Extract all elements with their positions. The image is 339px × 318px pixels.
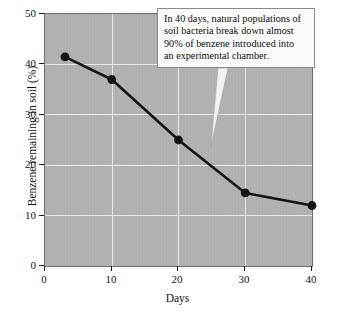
- tick-x-10: [111, 266, 112, 271]
- tick-x-0: [44, 266, 45, 271]
- ticklabel-x-30: 30: [224, 274, 264, 285]
- tick-x-30: [244, 266, 245, 271]
- tick-y-40: [39, 63, 44, 64]
- data-point: [61, 52, 70, 61]
- tick-y-30: [39, 114, 44, 115]
- annotation-line-3: 90% of benzene introduced into: [164, 38, 309, 50]
- x-axis-label: Days: [44, 292, 311, 304]
- data-point: [241, 189, 250, 198]
- tick-y-20: [39, 164, 44, 165]
- ticklabel-x-0: 0: [24, 274, 64, 285]
- tick-y-10: [39, 215, 44, 216]
- data-point: [174, 136, 183, 145]
- annotation-line-4: an experimental chamber.: [164, 50, 309, 62]
- tick-y-50: [39, 13, 44, 14]
- data-point: [107, 75, 116, 84]
- ticklabel-x-10: 10: [91, 274, 131, 285]
- annotation-callout: In 40 days, natural populations of soil …: [157, 8, 315, 68]
- tick-x-20: [177, 266, 178, 271]
- tick-x-40: [311, 266, 312, 271]
- ticklabel-y-50: 50: [0, 8, 36, 19]
- ticklabel-x-40: 40: [291, 274, 331, 285]
- ticklabel-x-20: 20: [157, 274, 197, 285]
- annotation-line-2: soil bacteria break down almost: [164, 25, 309, 37]
- series-markers: [61, 52, 317, 209]
- ticklabel-y-0: 0: [0, 260, 36, 271]
- y-axis-label: Benzene remaining in soil (%): [26, 36, 38, 236]
- data-point: [308, 201, 317, 210]
- chart-figure: 0 10 20 30 40 50 0 10 20 30 40 Days Benz…: [0, 0, 339, 318]
- series-line: [65, 57, 312, 206]
- annotation-line-1: In 40 days, natural populations of: [164, 13, 309, 25]
